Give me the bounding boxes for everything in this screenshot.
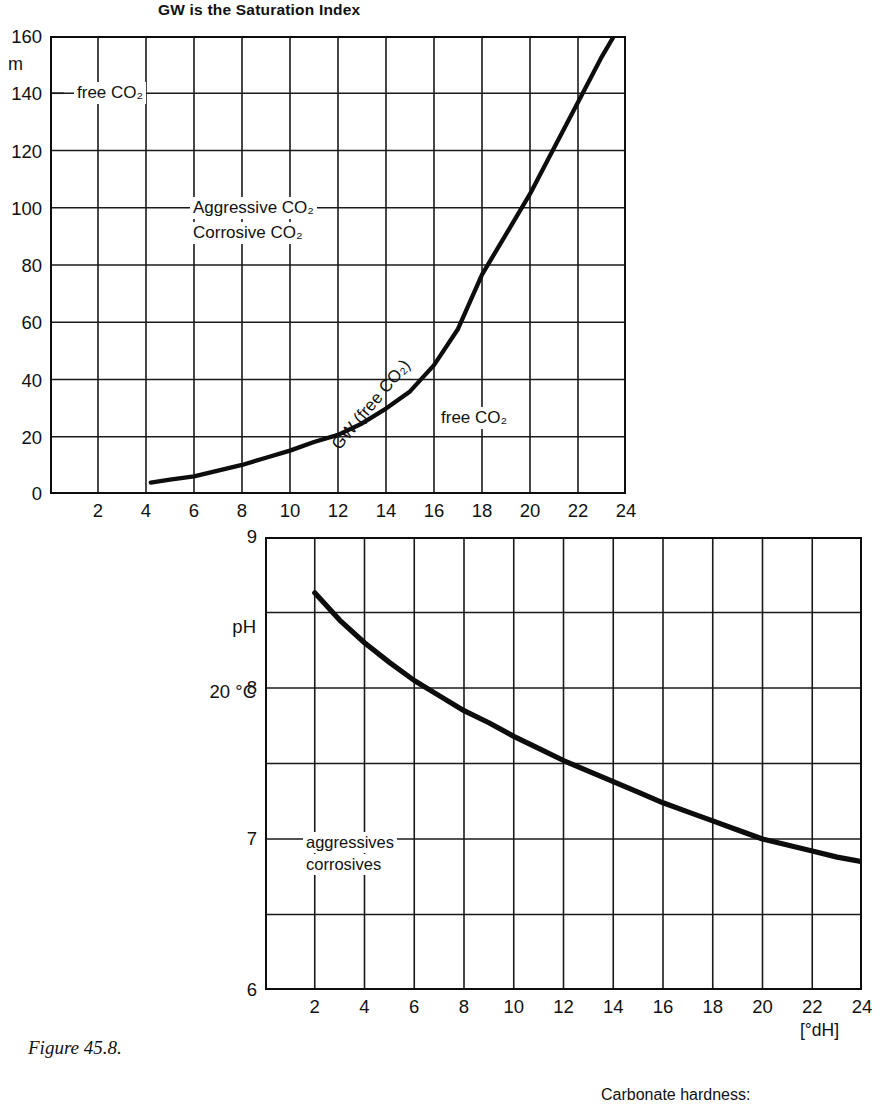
bottom-chart-x-axis: 2 4 6 8 10 12 14 16 18 20 22 24	[265, 996, 862, 1024]
carbonate-hardness-note-line1: Carbonate hardness:	[601, 1085, 750, 1104]
bottom-xtick-6: 6	[409, 996, 419, 1018]
top-xtick-4: 4	[141, 500, 151, 522]
top-chart-plot-area: free CO₂ Aggressive CO₂ Corrosive CO₂ GW…	[50, 36, 626, 494]
bottom-xtick-8: 8	[459, 996, 469, 1018]
top-xtick-12: 12	[328, 500, 349, 522]
top-xtick-20: 20	[520, 500, 541, 522]
bottom-ytick-7: 7	[247, 828, 257, 850]
top-chart-unit-label: m	[8, 55, 23, 74]
top-ytick-140: 140	[11, 83, 42, 105]
bottom-chart-ylabel-line2: 20 °C	[170, 681, 256, 703]
bottom-chart-y-axis: 6 7 8 9	[215, 0, 257, 1020]
annotation-free-co2-low: free CO₂	[438, 407, 510, 429]
top-xtick-24: 24	[616, 500, 637, 522]
annotation-free-co2-top: free CO₂	[74, 82, 146, 104]
bottom-xtick-14: 14	[603, 996, 624, 1018]
top-ytick-40: 40	[21, 370, 42, 392]
bottom-xtick-18: 18	[702, 996, 723, 1018]
bottom-xtick-24: 24	[852, 996, 873, 1018]
bottom-chart-x-unit: [°dH]	[800, 1020, 839, 1041]
top-ytick-100: 100	[11, 198, 42, 220]
top-ytick-20: 20	[21, 427, 42, 449]
top-chart-y-axis: 0 20 40 60 80 100 120 140 160	[0, 0, 42, 520]
top-xtick-16: 16	[424, 500, 445, 522]
bottom-ytick-6: 6	[247, 979, 257, 1001]
top-ytick-120: 120	[11, 141, 42, 163]
bottom-chart-ylabel: pH 20 °C	[170, 572, 256, 747]
bottom-xtick-16: 16	[653, 996, 674, 1018]
top-ytick-80: 80	[21, 255, 42, 277]
bottom-ytick-9: 9	[247, 526, 257, 548]
top-chart-x-axis: 2 4 6 8 10 12 14 16 18 20 22 24	[50, 500, 626, 528]
bottom-chart-plot-area: aggressives corrosives	[265, 537, 862, 990]
bottom-xtick-10: 10	[503, 996, 524, 1018]
top-xtick-6: 6	[189, 500, 199, 522]
annotation-aggressives: aggressives	[303, 832, 397, 853]
bottom-chart-frame	[265, 537, 862, 990]
bottom-xtick-22: 22	[802, 996, 823, 1018]
top-chart-frame	[50, 36, 626, 494]
top-xtick-10: 10	[280, 500, 301, 522]
page-title: GW is the Saturation Index	[158, 2, 360, 18]
annotation-corrosives: corrosives	[303, 854, 384, 875]
top-xtick-18: 18	[472, 500, 493, 522]
bottom-xtick-20: 20	[752, 996, 773, 1018]
top-xtick-2: 2	[93, 500, 103, 522]
figure-caption: Figure 45.8.	[28, 1037, 122, 1059]
top-ytick-0: 0	[32, 483, 42, 505]
bottom-xtick-12: 12	[553, 996, 574, 1018]
carbonate-hardness-note: Carbonate hardness:	[601, 1043, 750, 1104]
top-ytick-60: 60	[21, 312, 42, 334]
top-xtick-22: 22	[568, 500, 589, 522]
top-xtick-14: 14	[376, 500, 397, 522]
bottom-chart-ylabel-line1: pH	[170, 616, 256, 638]
bottom-xtick-4: 4	[359, 996, 369, 1018]
bottom-xtick-2: 2	[310, 996, 320, 1018]
top-ytick-160: 160	[11, 26, 42, 48]
